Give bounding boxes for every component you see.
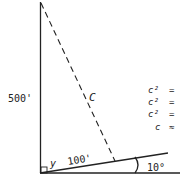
equation-4-op: ≈ (169, 122, 175, 132)
angle-arc (135, 157, 138, 173)
angle-vertex-label: y (49, 158, 56, 169)
equations: c² = c² = c² = c ≈ (148, 85, 175, 132)
equation-4-lhs: c (155, 122, 160, 132)
equation-3-lhs: c² (148, 109, 159, 119)
slope-side-label: 100' (67, 152, 93, 167)
vertical-side-label: 500' (8, 93, 32, 104)
hypotenuse-label: C (89, 91, 96, 104)
equation-3-op: = (169, 109, 175, 119)
equation-1-op: = (169, 85, 175, 95)
incline-angle-label: 10° (147, 162, 165, 173)
triangle-diagram: 500' C y 100' 10° c² = c² = c² = c ≈ (0, 0, 180, 176)
equation-2-op: = (169, 97, 175, 107)
hypotenuse-dashed (41, 3, 115, 161)
equation-2-lhs: c² (148, 97, 159, 107)
equation-1-lhs: c² (148, 85, 159, 95)
